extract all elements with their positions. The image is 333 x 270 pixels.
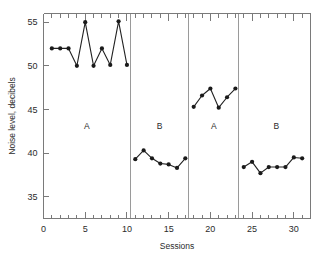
data-point bbox=[75, 64, 79, 68]
chart-axes bbox=[44, 14, 311, 219]
y-tick-label: 55 bbox=[27, 17, 37, 27]
data-point bbox=[58, 46, 62, 50]
x-axis-tick-labels: 051015202530 bbox=[41, 224, 299, 234]
data-point bbox=[217, 106, 221, 110]
data-point bbox=[133, 157, 137, 161]
data-point bbox=[91, 64, 95, 68]
series-segment bbox=[52, 21, 127, 65]
x-tick-label: 25 bbox=[247, 224, 257, 234]
series-segment bbox=[194, 89, 236, 108]
y-axis-title: Noise level, decibels bbox=[7, 77, 17, 154]
y-tick-label: 45 bbox=[27, 105, 37, 115]
phase-label: B bbox=[273, 121, 279, 131]
data-point bbox=[233, 86, 237, 90]
y-tick-label: 35 bbox=[27, 192, 37, 202]
x-tick-label: 15 bbox=[164, 224, 174, 234]
y-axis-tick-labels: 3540455055 bbox=[27, 17, 37, 201]
noise-level-chart: 3540455055 051015202530 ABAB Sessions No… bbox=[0, 0, 333, 270]
x-tick-label: 5 bbox=[83, 224, 88, 234]
data-point bbox=[267, 165, 271, 169]
data-point bbox=[175, 166, 179, 170]
data-point bbox=[292, 155, 296, 159]
data-series bbox=[50, 19, 305, 175]
data-point bbox=[275, 165, 279, 169]
data-point bbox=[225, 95, 229, 99]
data-point bbox=[66, 46, 70, 50]
y-axis-ticks bbox=[44, 22, 49, 196]
data-point bbox=[83, 20, 87, 24]
chart-canvas: 3540455055 051015202530 ABAB Sessions No… bbox=[0, 0, 333, 270]
data-point bbox=[192, 105, 196, 109]
data-point bbox=[208, 86, 212, 90]
phase-label: A bbox=[84, 121, 90, 131]
x-axis-ticks bbox=[44, 212, 303, 219]
data-point bbox=[200, 93, 204, 97]
data-point bbox=[100, 46, 104, 50]
data-point bbox=[125, 63, 129, 67]
x-tick-label: 20 bbox=[205, 224, 215, 234]
x-tick-label: 30 bbox=[289, 224, 299, 234]
data-point bbox=[300, 156, 304, 160]
x-tick-label: 0 bbox=[41, 224, 46, 234]
data-point bbox=[108, 63, 112, 67]
phase-labels: ABAB bbox=[84, 121, 279, 131]
data-point bbox=[142, 148, 146, 152]
data-point bbox=[50, 46, 54, 50]
phase-label: A bbox=[211, 121, 217, 131]
data-point bbox=[167, 162, 171, 166]
top-axis-ticks bbox=[44, 14, 303, 21]
data-point bbox=[242, 165, 246, 169]
data-point bbox=[258, 171, 262, 175]
data-point bbox=[158, 161, 162, 165]
y-tick-label: 40 bbox=[27, 148, 37, 158]
data-point bbox=[150, 156, 154, 160]
data-point bbox=[250, 160, 254, 164]
phase-label: B bbox=[157, 121, 163, 131]
x-axis-title: Sessions bbox=[160, 241, 195, 251]
data-point bbox=[183, 156, 187, 160]
data-point bbox=[116, 19, 120, 23]
y-tick-label: 50 bbox=[27, 61, 37, 71]
phase-dividers bbox=[130, 14, 238, 219]
data-point bbox=[283, 165, 287, 169]
x-tick-label: 10 bbox=[122, 224, 132, 234]
